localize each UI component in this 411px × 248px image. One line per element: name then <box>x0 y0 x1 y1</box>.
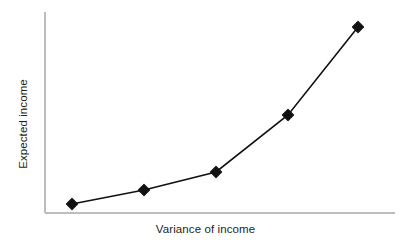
data-series-expected-income <box>67 22 364 210</box>
y-axis-label: Expected income <box>18 0 34 248</box>
axes <box>45 12 395 213</box>
data-point-marker <box>67 199 78 210</box>
series-line <box>72 27 358 204</box>
chart-figure: Variance of income Expected income <box>0 0 411 248</box>
x-axis-label: Variance of income <box>0 224 411 236</box>
data-point-markers <box>67 22 364 210</box>
data-point-marker <box>139 185 150 196</box>
plot-area <box>0 0 411 248</box>
